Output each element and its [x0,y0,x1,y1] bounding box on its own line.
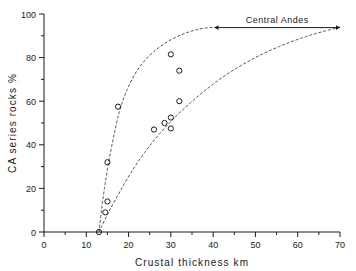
axes-group [44,14,340,232]
x-tick-label: 70 [335,240,345,250]
x-tick-label: 60 [293,240,303,250]
x-tick-label: 10 [81,240,91,250]
x-tick-label: 20 [124,240,134,250]
y-tick-label: 0 [31,228,36,238]
data-point [151,127,156,132]
annotation-label: Central Andes [246,15,309,25]
data-point [168,52,173,57]
arrowhead-right-icon [336,25,340,30]
x-tick-label: 30 [166,240,176,250]
arrowhead-left-icon [214,25,218,30]
data-point [168,115,173,120]
x-tick-label: 50 [250,240,260,250]
x-tick-label: 0 [41,240,46,250]
axis-labels-group: Crustal thickness kmCA series rocks % [7,73,249,268]
y-tick-group: 020406080100 [21,10,44,238]
data-point [105,199,110,204]
figure-container: 010203040506070 020406080100 Central And… [0,0,356,271]
x-tick-label: 40 [208,240,218,250]
y-tick-label: 60 [26,97,36,107]
data-point [177,68,182,73]
data-point [177,99,182,104]
annotations-group: Central Andes [214,15,340,30]
y-tick-label: 80 [26,53,36,63]
trend-curve-lower-envelope [99,27,340,232]
data-point [168,126,173,131]
trend-curves-group [99,27,340,232]
x-axis-label: Crustal thickness km [135,257,249,268]
data-points-group [96,52,182,235]
y-tick-label: 20 [26,184,36,194]
data-point [115,104,120,109]
x-tick-group: 010203040506070 [41,232,345,250]
y-tick-label: 40 [26,140,36,150]
data-point [105,160,110,165]
y-tick-label: 100 [21,10,36,20]
data-point [162,120,167,125]
scatter-plot: 010203040506070 020406080100 Central And… [0,0,356,271]
y-axis-label: CA series rocks % [7,73,18,173]
data-point [103,210,108,215]
